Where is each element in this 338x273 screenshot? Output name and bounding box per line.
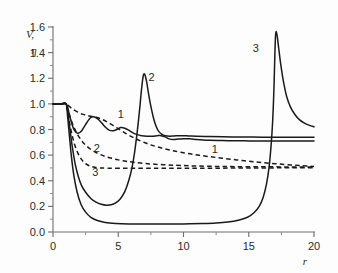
x-tick-label: 0 <box>50 240 56 252</box>
x-tick-label: 10 <box>177 240 189 252</box>
y-tick-label: 1.2 <box>30 72 45 84</box>
curves-group <box>53 31 314 224</box>
labels-group: V,ηr123123 <box>26 28 308 267</box>
x-tick-label: 5 <box>115 240 121 252</box>
curve-2 <box>53 74 314 205</box>
curve-label-1: 1 <box>118 108 124 120</box>
y-tick-label: 1.0 <box>30 98 45 110</box>
curve-label-2: 2 <box>148 71 154 83</box>
x-axis-title: r <box>303 255 308 267</box>
y-tick-label: 0.4 <box>30 175 45 187</box>
curve-3 <box>53 31 314 224</box>
curve-label-3: 3 <box>253 42 259 54</box>
y-axis-title-line1: V, <box>26 28 34 40</box>
chart-svg: 0.00.20.40.60.81.01.21.41.605101520 V,ηr… <box>0 0 338 273</box>
curve-label-2d: 2 <box>94 142 100 154</box>
curve-label-1d: 1 <box>212 143 218 155</box>
y-axis-title-line2: η <box>31 44 36 56</box>
chart-figure: 0.00.20.40.60.81.01.21.41.605101520 V,ηr… <box>0 0 338 273</box>
y-tick-label: 0.6 <box>30 149 45 161</box>
y-tick-label: 0.2 <box>30 200 45 212</box>
y-tick-label: 0.0 <box>30 226 45 238</box>
curve-label-3d: 3 <box>92 166 98 178</box>
x-tick-label: 15 <box>243 240 255 252</box>
y-tick-label: 0.8 <box>30 124 45 136</box>
x-tick-label: 20 <box>308 240 320 252</box>
